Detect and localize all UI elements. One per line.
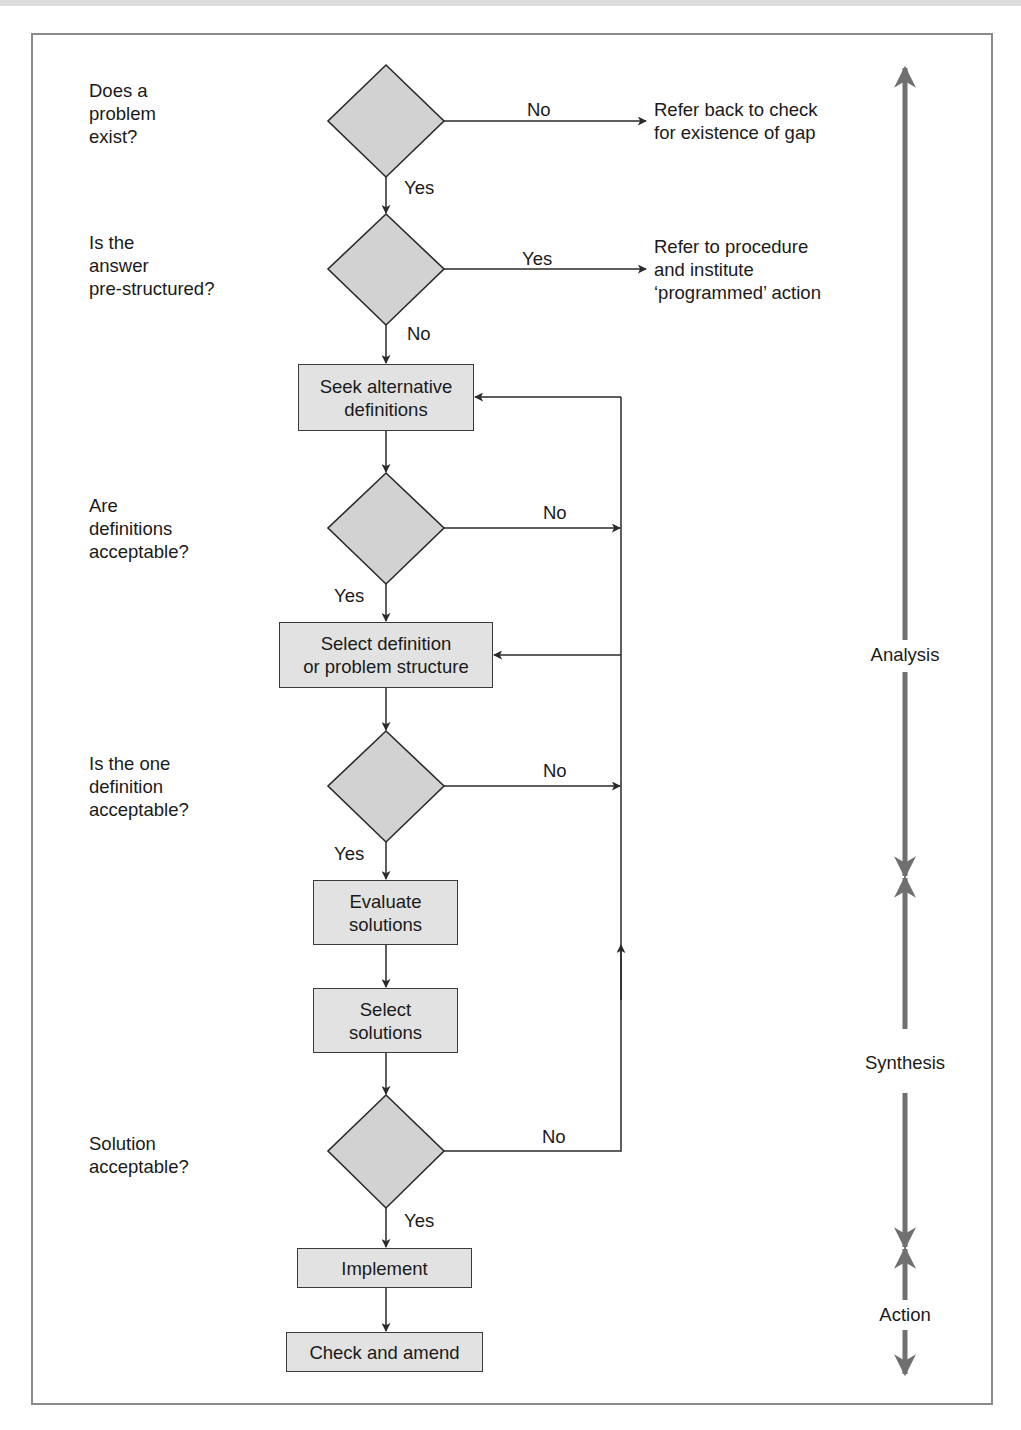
question-pre-structured: Is the answer pre-structured? xyxy=(89,231,214,300)
note-programmed-action: Refer to procedure and institute ‘progra… xyxy=(654,235,821,304)
decision-diamond-3 xyxy=(328,473,444,584)
edge-label-d2-no: No xyxy=(407,323,431,345)
decision-diamond-2 xyxy=(328,214,444,325)
edge-label-d4-yes: Yes xyxy=(334,843,364,865)
phase-label-action: Action xyxy=(879,1302,930,1328)
box-evaluate-solutions: Evaluate solutions xyxy=(313,880,458,945)
edge-label-d4-no: No xyxy=(543,760,567,782)
box-check-and-amend: Check and amend xyxy=(286,1332,483,1372)
phase-label-synthesis: Synthesis xyxy=(865,1050,945,1076)
edge-label-d2-yes: Yes xyxy=(522,248,552,270)
box-seek-alternative-definitions: Seek alternative definitions xyxy=(298,364,474,431)
box-implement: Implement xyxy=(297,1248,472,1288)
edge-label-d1-yes: Yes xyxy=(404,177,434,199)
note-check-gap: Refer back to check for existence of gap xyxy=(654,98,818,144)
flowchart-graphics xyxy=(0,0,1021,1430)
edge-label-d5-no: No xyxy=(542,1126,566,1148)
edge-label-d1-no: No xyxy=(527,99,551,121)
edge-label-d5-yes: Yes xyxy=(404,1210,434,1232)
box-select-solutions: Select solutions xyxy=(313,988,458,1053)
question-solution-acceptable: Solution acceptable? xyxy=(89,1132,189,1178)
question-definitions-acceptable: Are definitions acceptable? xyxy=(89,494,189,563)
decision-diamond-4 xyxy=(328,731,444,842)
decision-diamond-5 xyxy=(328,1095,444,1208)
decision-diamond-1 xyxy=(328,65,444,177)
box-select-definition: Select definition or problem structure xyxy=(279,622,493,688)
phase-label-analysis: Analysis xyxy=(871,642,940,668)
question-problem-exists: Does a problem exist? xyxy=(89,79,156,148)
edge-label-d3-no: No xyxy=(543,502,567,524)
question-one-definition-acceptable: Is the one definition acceptable? xyxy=(89,752,189,821)
edge-label-d3-yes: Yes xyxy=(334,585,364,607)
